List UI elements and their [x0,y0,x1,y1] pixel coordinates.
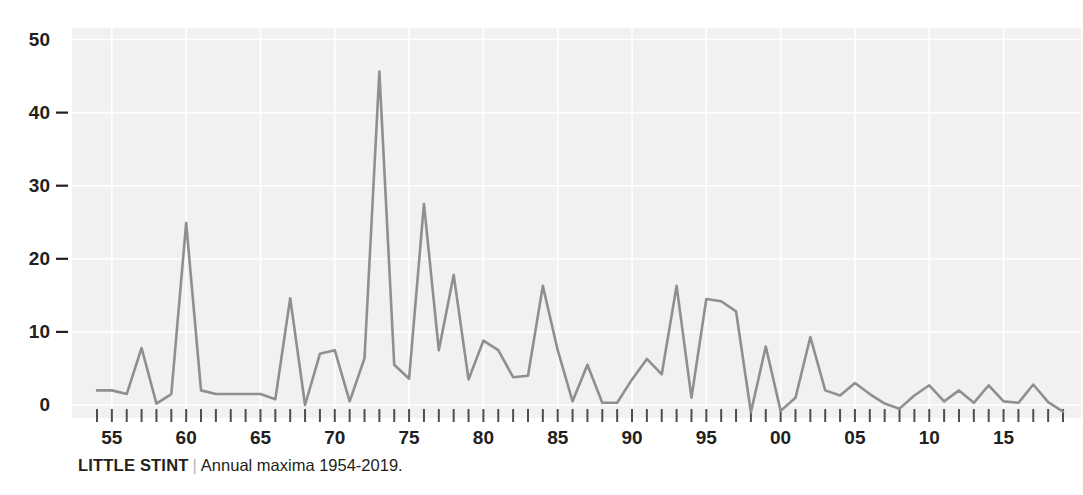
caption-subtitle: Annual maxima 1954-2019. [201,456,403,474]
x-axis-tick-label: 15 [993,427,1015,448]
x-axis-tick-label: 70 [324,427,345,448]
x-axis-tick-label: 75 [399,427,421,448]
x-axis-tick-label: 55 [101,427,123,448]
y-axis-tick-label: 0 [39,394,50,415]
y-axis-tick-label: 50 [29,29,50,50]
y-axis-tick-marks [56,113,68,332]
x-axis-tick-label: 10 [919,427,940,448]
x-axis-tick-label: 05 [844,427,866,448]
y-axis-tick-label: 30 [29,175,50,196]
y-axis-tick-label: 20 [29,248,50,269]
y-axis-tick-label: 40 [29,102,50,123]
y-axis-tick-labels: 01020304050 [29,29,50,416]
x-axis-tick-labels: 55606570758085909500051015 [101,427,1014,448]
x-axis-tick-label: 85 [547,427,569,448]
x-axis-tick-label: 90 [621,427,642,448]
x-axis-tick-label: 65 [250,427,272,448]
x-axis-tick-label: 80 [473,427,494,448]
chart-figure: 01020304050 55606570758085909500051015 L… [0,0,1083,495]
y-axis-tick-label: 10 [29,321,50,342]
line-chart: 01020304050 55606570758085909500051015 [0,0,1083,495]
caption-separator: | [189,456,201,474]
chart-caption: LITTLE STINT|Annual maxima 1954-2019. [78,455,403,475]
x-axis-tick-label: 60 [176,427,197,448]
caption-title: LITTLE STINT [78,456,189,474]
x-axis-tick-label: 00 [770,427,791,448]
x-axis-tick-label: 95 [696,427,718,448]
